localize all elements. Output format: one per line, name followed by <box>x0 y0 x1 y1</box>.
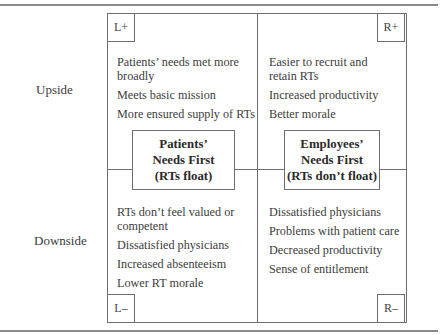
list-item: Lower RT morale <box>117 276 252 290</box>
list-item: Increased productivity <box>269 88 381 102</box>
center-divider <box>257 13 258 322</box>
list-item: Dissatisfied physicians <box>117 238 252 252</box>
tag-right-plus: R+ <box>377 13 405 42</box>
top-rule <box>0 4 438 6</box>
pole-right-line3: (RTs don’t float) <box>287 168 377 184</box>
tag-left-minus: L– <box>107 294 135 323</box>
list-item: More ensured supply of RTs <box>117 107 252 121</box>
pole-left-box: Patients’ Needs First (RTs float) <box>132 130 235 190</box>
list-item: RTs don’t feel valued or competent <box>117 205 252 233</box>
bottom-rule <box>0 330 438 332</box>
pole-right-box: Employees’ Needs First (RTs don’t float) <box>284 130 380 190</box>
list-item: Problems with patient care <box>269 224 409 238</box>
downside-label: Downside <box>34 233 87 249</box>
downside-left-list: RTs don’t feel valued or competent Dissa… <box>117 205 252 295</box>
pole-left-line1: Patients’ <box>159 136 207 152</box>
downside-right-list: Dissatisfied physicians Problems with pa… <box>269 205 409 281</box>
upside-left-list: Patients’ needs met more broadly Meets b… <box>117 55 252 126</box>
pole-right-line1: Employees’ <box>300 136 363 152</box>
list-item: Decreased productivity <box>269 243 409 257</box>
pole-right-line2: Needs First <box>301 152 363 168</box>
list-item: Sense of entitlement <box>269 262 409 276</box>
list-item: Meets basic mission <box>117 88 252 102</box>
list-item: Better morale <box>269 107 381 121</box>
list-item: Dissatisfied physicians <box>269 205 409 219</box>
upside-right-list: Easier to recruit and retain RTs Increas… <box>269 55 381 126</box>
tag-left-plus: L+ <box>107 13 135 42</box>
pole-left-line2: Needs First <box>152 152 214 168</box>
tag-right-minus: R– <box>377 294 405 323</box>
list-item: Increased absenteeism <box>117 257 252 271</box>
list-item: Patients’ needs met more broadly <box>117 55 252 83</box>
pole-left-line3: (RTs float) <box>155 168 213 184</box>
upside-label: Upside <box>36 82 73 98</box>
list-item: Easier to recruit and retain RTs <box>269 55 381 83</box>
